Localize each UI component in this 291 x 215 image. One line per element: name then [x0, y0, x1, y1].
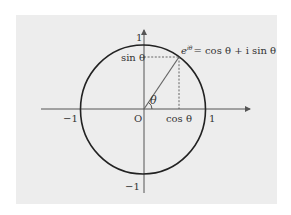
origin-label: O: [134, 113, 142, 124]
euler-formula: eiθ= cos θ + i sin θ: [181, 44, 276, 56]
cos-label: cos θ: [166, 113, 192, 124]
angle-label: θ: [150, 94, 157, 107]
sin-label: sin θ: [121, 52, 145, 63]
y-pos-label: 1: [136, 32, 142, 43]
x-pos-label: 1: [209, 113, 215, 124]
y-neg-label: −1: [125, 181, 140, 192]
formula-exponent: iθ: [187, 44, 193, 51]
formula-rhs: = cos θ + i sin θ: [193, 45, 276, 56]
x-neg-label: −1: [63, 113, 78, 124]
euler-unit-circle-diagram: θ O −1 1 1 −1 cos θ sin θ eiθ= cos θ + i…: [0, 0, 291, 215]
